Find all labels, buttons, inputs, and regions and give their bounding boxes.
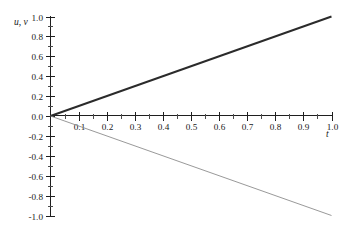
x-tick-label: 0.8 <box>270 122 282 132</box>
x-tick-label: 0.5 <box>186 122 198 132</box>
y-tick-label: 0.0 <box>32 112 44 122</box>
x-tick-label: 0.9 <box>298 122 310 132</box>
y-tick-label: -0.8 <box>28 192 43 202</box>
y-axis-label: u, v <box>14 16 29 27</box>
y-tick-label: -0.2 <box>28 132 43 142</box>
chart-figure: 1.00.80.60.40.20.0-0.2-0.4-0.6-0.8-1.0 0… <box>0 0 345 229</box>
y-tick-label: -0.6 <box>28 172 43 182</box>
x-tick-label: 0.3 <box>130 122 142 132</box>
y-tick-label: 0.8 <box>32 32 44 42</box>
y-tick-label: 0.6 <box>32 52 44 62</box>
x-tick-label: 0.4 <box>158 122 170 132</box>
y-tick-label: -0.4 <box>28 152 43 162</box>
x-tick-label: 0.2 <box>102 122 114 132</box>
y-tick-label: 0.4 <box>32 72 44 82</box>
x-axis-label: t <box>326 128 329 139</box>
y-tick-label: 0.2 <box>32 92 44 102</box>
x-tick-label: 0.6 <box>214 122 226 132</box>
chart-background <box>0 0 345 229</box>
y-tick-label: -1.0 <box>28 212 43 222</box>
x-tick-label: 0.7 <box>242 122 254 132</box>
plot-canvas: 1.00.80.60.40.20.0-0.2-0.4-0.6-0.8-1.0 0… <box>0 0 345 229</box>
y-tick-label: 1.0 <box>32 13 44 23</box>
